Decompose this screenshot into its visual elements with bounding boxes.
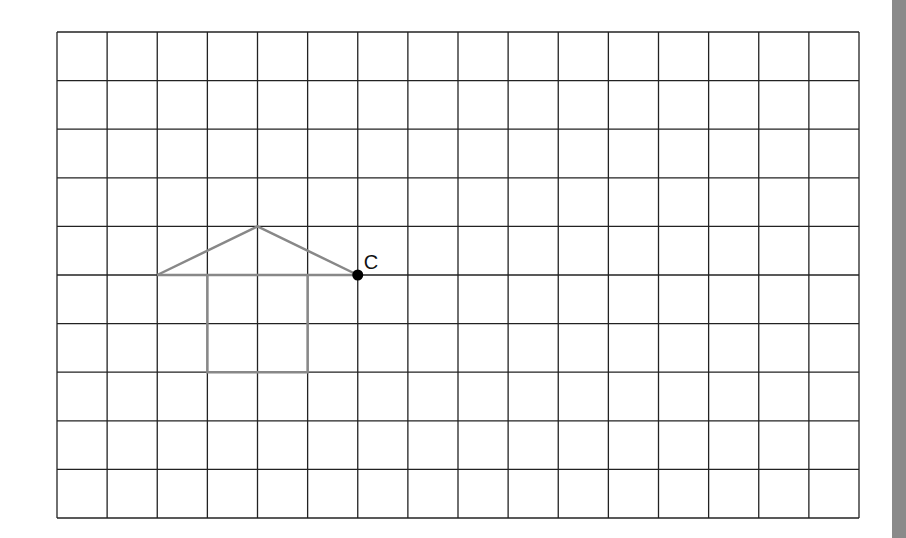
point-c-label: C xyxy=(364,251,378,273)
grid-diagram: C xyxy=(0,0,906,538)
point-c-marker xyxy=(352,270,363,281)
page-edge-bar xyxy=(892,0,906,538)
